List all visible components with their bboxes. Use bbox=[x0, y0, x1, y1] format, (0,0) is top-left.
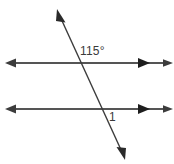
transversal-line bbox=[56, 9, 126, 160]
lower-line-right-arrowhead bbox=[163, 105, 173, 113]
transversal-bottom-arrowhead bbox=[117, 147, 127, 160]
lower-parallel-line bbox=[5, 104, 173, 114]
upper-parallel-line bbox=[5, 58, 173, 68]
lower-line-inner-right-arrowhead bbox=[138, 104, 150, 114]
lower-line-left-arrowhead bbox=[5, 104, 16, 113]
upper-line-left-arrowhead bbox=[5, 58, 16, 67]
geometry-figure: 115° 1 bbox=[0, 0, 174, 164]
transversal-line-segment bbox=[61, 18, 123, 153]
upper-line-inner-right-arrowhead bbox=[138, 58, 150, 68]
angle-measure-label: 115° bbox=[80, 45, 105, 57]
transversal-top-arrowhead bbox=[56, 9, 66, 23]
figure-svg bbox=[0, 0, 174, 164]
upper-line-right-arrowhead bbox=[163, 59, 173, 67]
angle-number-label: 1 bbox=[109, 111, 116, 123]
